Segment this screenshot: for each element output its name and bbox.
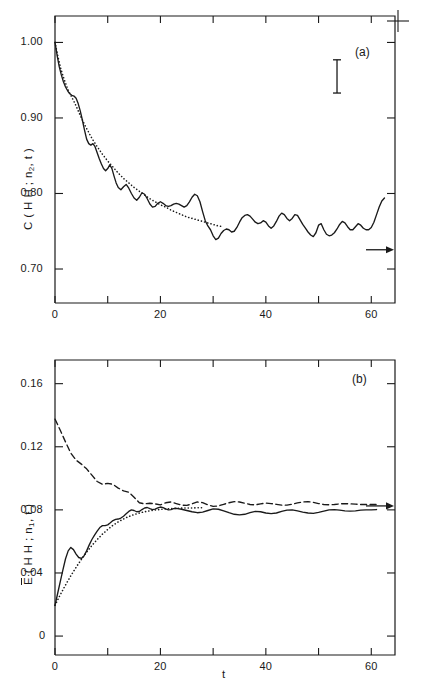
xtick-label-a-0: 0 (52, 308, 58, 320)
panel-a (55, 16, 395, 303)
series-lower-branch (55, 507, 377, 605)
panel-tag-b: (b) (352, 372, 367, 386)
figure-canvas: 02040601.000.900.800.7002040600.160.120.… (0, 0, 421, 693)
ytick-label-a-1: 1.00 (21, 35, 43, 47)
ytick-label-a-0p7: 0.70 (21, 262, 43, 274)
series-upper-branch (55, 419, 377, 506)
scientific-figure-svg (0, 0, 421, 693)
y-axis-title-a: C ( H H ; n2, t ) (22, 148, 36, 230)
xtick-label-b-40: 40 (259, 660, 272, 672)
asymptote-arrow-icon (366, 502, 394, 509)
ytick-label-a-0p9: 0.90 (21, 111, 43, 123)
ytick-label-b-0p16: 0.16 (21, 377, 43, 389)
xtick-label-a-40: 40 (259, 308, 272, 320)
ytick-label-b-0p12: 0.12 (21, 440, 43, 452)
ytick-label-b-0: 0 (39, 629, 45, 641)
y-axis-title-b: E ( H H ; n1, t ) (22, 503, 36, 585)
registration-mark-icon (387, 10, 409, 32)
xtick-label-b-20: 20 (154, 660, 167, 672)
asymptote-arrow-icon (366, 246, 394, 253)
panel-b (55, 360, 395, 655)
series-theory (55, 508, 203, 605)
series-simulation (55, 42, 384, 239)
xtick-label-b-60: 60 (365, 660, 378, 672)
xtick-label-b-0: 0 (52, 660, 58, 672)
error-bar-marker (333, 60, 341, 93)
panel-tag-a: (a) (355, 45, 370, 59)
xtick-label-a-20: 20 (154, 308, 167, 320)
xtick-label-a-60: 60 (365, 308, 378, 320)
x-axis-title-b: t (222, 668, 225, 680)
